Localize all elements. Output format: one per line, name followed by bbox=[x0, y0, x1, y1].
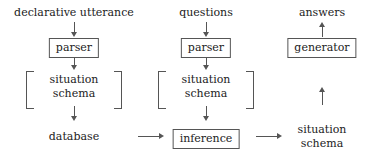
flow-diagram: declarative utterance parser situation s… bbox=[0, 0, 365, 160]
node-situation-schema-right-line1: situation bbox=[298, 123, 347, 137]
node-declarative-utterance: declarative utterance bbox=[14, 6, 134, 19]
arrow-inference-to-schema-right-icon bbox=[256, 130, 282, 142]
arrow-schema-to-inference-icon bbox=[200, 106, 212, 121]
arrow-schema-right-to-generator-icon bbox=[316, 87, 328, 105]
right-bracket-icon bbox=[246, 71, 254, 109]
node-answers: answers bbox=[299, 6, 345, 19]
node-situation-schema-middle-line2: schema bbox=[170, 87, 242, 101]
left-bracket-icon bbox=[158, 71, 166, 109]
node-database: database bbox=[49, 130, 99, 143]
node-situation-schema-left-line1: situation bbox=[38, 73, 110, 87]
node-generator: generator bbox=[287, 38, 356, 58]
node-situation-schema-middle: situation schema bbox=[156, 71, 256, 109]
node-parser-left: parser bbox=[49, 38, 99, 58]
node-situation-schema-left: situation schema bbox=[24, 71, 124, 109]
node-situation-schema-middle-line1: situation bbox=[170, 73, 242, 87]
arrow-database-to-inference-icon bbox=[138, 130, 164, 142]
arrow-schema-to-database-icon bbox=[68, 106, 80, 121]
node-inference: inference bbox=[173, 129, 240, 149]
node-parser-middle: parser bbox=[181, 38, 231, 58]
left-bracket-icon bbox=[26, 71, 34, 109]
arrow-parser-to-schema-left-icon bbox=[68, 57, 80, 70]
right-bracket-icon bbox=[114, 71, 122, 109]
arrow-questions-to-parser-icon bbox=[200, 22, 212, 37]
arrow-utterance-to-parser-icon bbox=[68, 22, 80, 37]
arrow-generator-to-answers-icon bbox=[316, 22, 328, 37]
node-situation-schema-right: situation schema bbox=[298, 123, 347, 151]
arrow-parser-to-schema-middle-icon bbox=[200, 57, 212, 70]
node-situation-schema-left-line2: schema bbox=[38, 87, 110, 101]
node-questions: questions bbox=[179, 6, 233, 19]
node-situation-schema-right-line2: schema bbox=[298, 137, 347, 151]
